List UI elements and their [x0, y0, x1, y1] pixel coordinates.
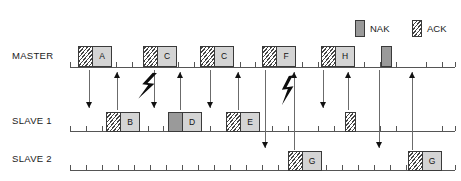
packet-label: D: [183, 113, 201, 131]
ack-flag-icon: [107, 113, 121, 131]
row-label-master: MASTER: [12, 51, 53, 61]
axis-tick: [334, 126, 335, 131]
axis-tick: [163, 126, 164, 131]
arrow-head-m-to-s1-c1: [151, 102, 157, 108]
axis-tick: [364, 62, 365, 67]
packet-label: E: [241, 113, 259, 131]
axis-tick: [70, 126, 71, 131]
axis-tick: [116, 62, 117, 67]
axis-tick: [178, 62, 179, 67]
axis-tick: [102, 126, 103, 131]
packet-master-c[interactable]: C: [143, 46, 177, 67]
axis-tick: [318, 62, 319, 67]
packet-label: C: [158, 47, 176, 66]
axis-tick: [326, 165, 327, 170]
axis-tick: [455, 62, 456, 67]
arrow-head-m-to-s1-a: [86, 102, 92, 108]
packet-label: B: [121, 113, 139, 131]
arrow-head-m-to-s1-h: [320, 102, 326, 108]
axis-tick: [390, 165, 391, 170]
packet-label: C: [215, 47, 233, 66]
axis-tick: [210, 126, 211, 131]
axis-tick: [246, 165, 247, 170]
arrow-head-s1-to-m-b: [114, 72, 120, 78]
arrow-head-m-to-s2-nak: [376, 142, 382, 148]
arrow-head-s2-to-m-g2: [409, 72, 415, 78]
slave1-ack-box[interactable]: [345, 112, 356, 132]
axis-tick: [134, 165, 135, 170]
axis-tick: [118, 165, 119, 170]
legend-swatch-ack: [412, 20, 422, 37]
axis-tick: [455, 126, 456, 131]
ack-flag-icon: [144, 47, 158, 66]
timing-diagram: NAKACK MASTERSLAVE 1SLAVE 2 ACCFHBDEGG: [0, 0, 461, 181]
ack-flag-icon: [289, 152, 303, 170]
axis-tick: [380, 126, 381, 131]
axis-tick: [70, 62, 71, 67]
arrow-shaft-s2-to-m-g2: [412, 72, 413, 150]
packet-label: A: [93, 47, 111, 66]
axis-tick: [214, 165, 215, 170]
axis-tick: [396, 62, 397, 67]
axis-tick: [194, 62, 195, 67]
ack-flag-icon: [227, 113, 241, 131]
axis-tick: [442, 62, 443, 67]
axis-tick: [198, 165, 199, 170]
packet-slave2-g[interactable]: G: [408, 151, 442, 171]
packet-slave1-b[interactable]: B: [106, 112, 140, 132]
axis-tick: [182, 165, 183, 170]
axis-tick: [70, 165, 71, 170]
axis-tick: [278, 165, 279, 170]
axis-tick: [288, 126, 289, 131]
axis-tick: [132, 62, 133, 67]
axis-tick: [374, 165, 375, 170]
packet-slave1-e[interactable]: E: [226, 112, 260, 132]
axis-tick: [442, 126, 443, 131]
axis-tick: [426, 62, 427, 67]
row-label-slave1: SLAVE 1: [12, 116, 52, 126]
packet-master-h[interactable]: H: [321, 46, 355, 67]
axis-tick: [86, 126, 87, 131]
legend-label-nak: NAK: [370, 24, 390, 34]
packet-label: G: [423, 152, 441, 170]
packet-label: H: [336, 47, 354, 66]
legend-label-ack: ACK: [427, 24, 447, 34]
master-nak-box[interactable]: [381, 46, 392, 67]
packet-slave1-d[interactable]: D: [168, 112, 202, 132]
packet-master-c[interactable]: C: [200, 46, 234, 67]
ack-flag-icon: [201, 47, 215, 66]
arrow-head-m-to-s2-f: [262, 142, 268, 148]
axis-tick: [318, 126, 319, 131]
timeline-axis-master: [70, 67, 455, 68]
axis-tick: [166, 165, 167, 170]
axis-tick: [148, 126, 149, 131]
axis-tick: [272, 126, 273, 131]
ack-flag-icon: [263, 47, 277, 66]
axis-tick: [240, 62, 241, 67]
axis-tick: [102, 165, 103, 170]
axis-tick: [230, 165, 231, 170]
axis-tick: [302, 62, 303, 67]
packet-master-f[interactable]: F: [262, 46, 296, 67]
axis-tick: [455, 165, 456, 170]
arrow-head-m-to-s1-c2: [207, 102, 213, 108]
axis-tick: [358, 165, 359, 170]
packet-slave2-g[interactable]: G: [288, 151, 322, 171]
nak-flag-icon: [169, 113, 183, 131]
ack-flag-icon: [409, 152, 423, 170]
axis-tick: [86, 165, 87, 170]
legend-swatch-nak: [355, 20, 365, 37]
packet-label: F: [277, 47, 295, 66]
axis-tick: [150, 165, 151, 170]
arrow-shaft-m-to-s2-f: [265, 70, 266, 148]
arrow-head-s1-to-m-e: [235, 72, 241, 78]
arrow-head-s1-to-m-d: [177, 72, 183, 78]
axis-tick: [255, 62, 256, 67]
ack-flag-icon: [79, 47, 93, 66]
axis-tick: [406, 165, 407, 170]
ack-flag-icon: [322, 47, 336, 66]
packet-master-a[interactable]: A: [78, 46, 112, 67]
axis-tick: [396, 126, 397, 131]
row-label-slave2: SLAVE 2: [12, 154, 52, 164]
axis-tick: [262, 165, 263, 170]
